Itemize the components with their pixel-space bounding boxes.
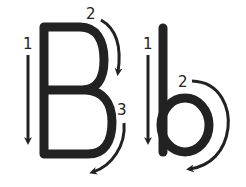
b-stroke-1: 1 <box>143 35 153 141</box>
letter-B-glyph <box>44 27 112 154</box>
stroke-number-1: 1 <box>143 35 153 53</box>
stroke-number-2: 2 <box>86 5 96 23</box>
stroke-number-1: 1 <box>23 35 33 53</box>
stroke-number-2: 2 <box>178 73 188 91</box>
diagram-svg: 1 2 3 1 2 <box>0 0 246 187</box>
B-stroke-1: 1 <box>23 35 33 141</box>
stroke-order-diagram: 1 2 3 1 2 <box>0 0 246 187</box>
stroke-number-3: 3 <box>117 101 127 119</box>
letter-b-bowl <box>161 98 209 152</box>
letter-B <box>44 27 112 154</box>
